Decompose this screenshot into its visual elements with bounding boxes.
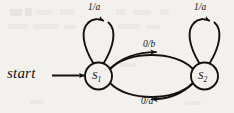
state-subscript-s2: 2 bbox=[204, 75, 208, 84]
start-label: start bbox=[7, 66, 36, 81]
self-loop-s1 bbox=[84, 19, 114, 63]
self-loop-s2 bbox=[190, 19, 220, 63]
diagram-graphics bbox=[0, 0, 234, 113]
transition-label-s1-to-s2: 0/b bbox=[143, 40, 155, 50]
transition-label-loop-s1: 1/a bbox=[88, 3, 100, 13]
transition-label-s2-to-s1: 0/a bbox=[141, 97, 153, 107]
state-subscript-s1: 1 bbox=[98, 75, 102, 84]
transition-s1-to-s2 bbox=[111, 52, 193, 68]
state-diagram-canvas: start S1 S2 1/a 1/a 0/b 0/a bbox=[0, 0, 234, 113]
transition-label-loop-s2: 1/a bbox=[194, 3, 206, 13]
state-label-s2: S2 bbox=[198, 70, 207, 84]
state-label-s1: S1 bbox=[92, 70, 101, 84]
